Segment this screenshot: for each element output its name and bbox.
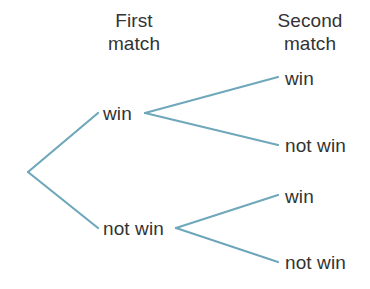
branch-win-to-not-win [145,113,278,145]
column-heading-second-match-line2: match [256,32,364,55]
branch-not-win-to-not-win [176,228,278,262]
node-label-first-match-win: win [103,104,132,123]
node-label-second-match-not-win-not-win: not win [285,253,346,272]
branch-win-to-win [145,77,278,113]
node-label-second-match-not-win-win: win [285,187,314,206]
node-label-second-match-win-win: win [285,69,314,88]
probability-tree-diagram: First match Second match win not win win… [0,0,370,289]
node-label-first-match-not-win: not win [103,219,164,238]
node-label-second-match-win-not-win: not win [285,136,346,155]
column-heading-first-match: First match [84,9,184,55]
column-heading-first-match-line1: First [84,9,184,32]
branch-root-to-win [28,113,98,172]
branch-root-to-not-win [28,172,98,228]
column-heading-first-match-line2: match [84,32,184,55]
column-heading-second-match-line1: Second [256,9,364,32]
column-heading-second-match: Second match [256,9,364,55]
branch-not-win-to-win [176,195,278,228]
